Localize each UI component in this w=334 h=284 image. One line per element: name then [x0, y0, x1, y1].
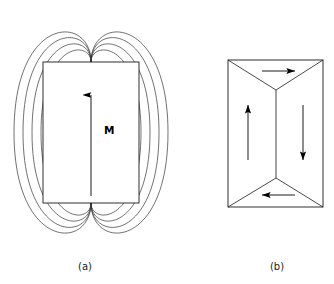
magnetization-label: M	[104, 124, 114, 136]
figure-container: M (a) (b)	[0, 0, 334, 284]
magnetic-domain-figure: M (a) (b)	[0, 0, 334, 284]
panel-a-group: M (a)	[14, 32, 168, 272]
caption-b: (b)	[270, 261, 284, 272]
caption-a: (a)	[78, 261, 92, 272]
domain-body-rect	[228, 60, 323, 207]
panel-b-group: (b)	[228, 60, 323, 272]
